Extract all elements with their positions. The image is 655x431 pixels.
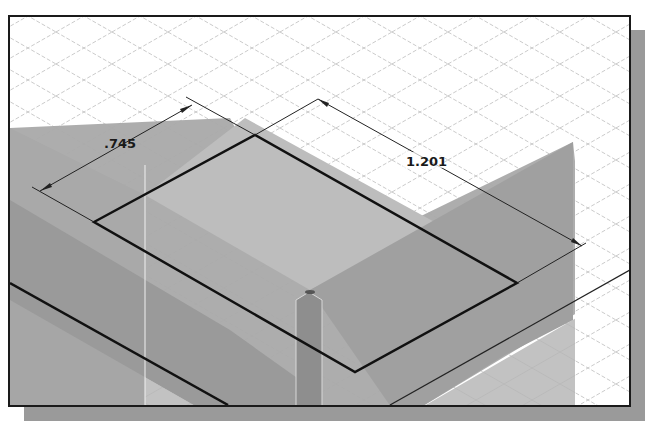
graphics-viewport[interactable]: .745 1.201 <box>8 15 631 407</box>
sketch-canvas[interactable]: .745 1.201 <box>8 15 631 407</box>
work-point-icon[interactable] <box>305 290 315 294</box>
dimension-label-745[interactable]: .745 <box>104 136 136 151</box>
dimension-label-1201[interactable]: 1.201 <box>406 154 447 169</box>
